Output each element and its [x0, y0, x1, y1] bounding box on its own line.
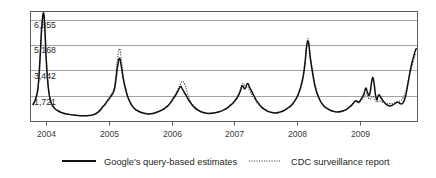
y-tick-label-6855: 6,855: [34, 20, 56, 30]
chart-legend: Google's query-based estimates CDC surve…: [62, 157, 390, 167]
flu-trends-figure: 1,7213,4425,1686,855 2004200520062007200…: [0, 0, 436, 178]
x-tick-label-2005: 2005: [100, 129, 119, 139]
legend-label-cdc: CDC surveillance report: [291, 157, 390, 167]
x-tick-label-2004: 2004: [37, 129, 56, 139]
y-tick-label-3442: 3,442: [34, 71, 56, 81]
chart-canvas: 1,7213,4425,1686,855 2004200520062007200…: [0, 0, 436, 178]
x-tick-label-2006: 2006: [163, 129, 182, 139]
x-tick-label-2007: 2007: [225, 129, 244, 139]
x-tick-label-2008: 2008: [288, 129, 307, 139]
y-tick-label-5168: 5,168: [34, 45, 56, 55]
legend-label-google: Google's query-based estimates: [104, 157, 237, 167]
y-tick-label-1721: 1,721: [34, 97, 56, 107]
x-tick-label-2009: 2009: [351, 129, 370, 139]
